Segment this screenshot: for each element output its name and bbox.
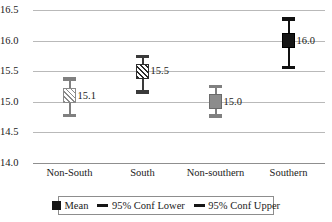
confidence-upper-cap	[63, 77, 76, 81]
confidence-upper-cap	[282, 17, 295, 21]
data-point-value-label: 15.5	[151, 66, 169, 77]
x-axis-category-label: South	[130, 167, 155, 179]
confidence-lower-cap	[136, 90, 149, 94]
legend-label: Mean	[64, 200, 88, 211]
x-axis-category-label: Non-South	[46, 167, 92, 179]
plot-area: 15.115.515.016.0	[33, 10, 325, 163]
confidence-lower-cap	[63, 114, 76, 118]
confidence-lower-cap	[282, 66, 295, 70]
mean-marker	[63, 88, 76, 103]
mean-marker	[282, 33, 295, 48]
gridline	[33, 71, 325, 72]
data-point-value-label: 16.0	[297, 36, 315, 47]
legend-item: 95% Conf Lower	[97, 200, 184, 211]
legend-dash-icon	[97, 204, 108, 208]
legend-label: 95% Conf Lower	[112, 200, 185, 211]
legend-square-icon	[52, 201, 61, 210]
gridline	[33, 102, 325, 103]
gridline	[33, 132, 325, 133]
data-point-value-label: 15.1	[78, 91, 96, 102]
data-point-value-label: 15.0	[224, 97, 242, 108]
legend-item: Mean	[52, 200, 88, 211]
confidence-upper-cap	[209, 85, 222, 89]
mean-marker	[209, 94, 222, 109]
mean-marker	[136, 64, 149, 79]
mean-confidence-interval-chart: 16.516.015.515.014.514.0 15.115.515.016.…	[0, 0, 332, 222]
legend-item: 95% Conf Upper	[194, 200, 280, 211]
y-axis-tick-label: 15.0	[0, 97, 29, 108]
y-axis-tick-label: 14.5	[0, 127, 29, 138]
y-axis-tick-label: 16.5	[0, 5, 29, 16]
x-axis-category-labels: Non-SouthSouthNon-southernSouthern	[33, 167, 325, 183]
confidence-lower-cap	[209, 114, 222, 118]
y-axis-tick-label: 15.5	[0, 66, 29, 77]
legend-dash-icon	[194, 204, 205, 208]
gridline	[33, 10, 325, 11]
x-axis-line	[33, 163, 325, 164]
chart-legend: Mean95% Conf Lower95% Conf Upper	[58, 196, 274, 215]
y-axis-tick-label: 14.0	[0, 158, 29, 169]
x-axis-category-label: Non-southern	[187, 167, 245, 179]
confidence-upper-cap	[136, 55, 149, 59]
y-axis-tick-label: 16.0	[0, 36, 29, 47]
legend-label: 95% Conf Upper	[208, 200, 280, 211]
x-axis-category-label: Southern	[270, 167, 308, 179]
